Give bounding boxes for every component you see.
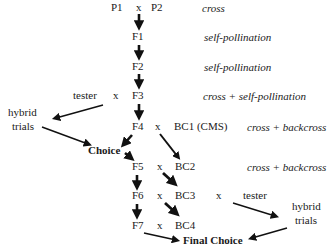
node-f4: F4 — [132, 121, 144, 132]
node-p2: P2 — [151, 2, 163, 13]
cross-symbol: x — [113, 90, 119, 101]
node-f5: F5 — [132, 161, 144, 172]
arrow-f5bc2-to-bc3 — [163, 173, 174, 183]
cross-symbol: x — [216, 190, 222, 201]
annotation-self-pollination-2: self-pollination — [204, 62, 271, 73]
arrow-hybrid-right-to-final-choice — [252, 228, 287, 238]
arrow-hybrid-left-to-choice — [42, 127, 88, 144]
node-f2: F2 — [132, 61, 144, 72]
annotation-cross-backcross-1: cross + backcross — [247, 122, 326, 133]
cross-symbol: x — [155, 121, 161, 132]
arrow-choice-to-f5 — [125, 153, 131, 158]
node-bc2: BC2 — [175, 161, 195, 172]
node-bc4: BC4 — [175, 220, 195, 231]
breeding-scheme-diagram: P1 x P2 cross F1 self-pollination F2 sel… — [0, 0, 335, 251]
node-hybrid-trials-left-line2: trials — [12, 121, 34, 132]
node-f3: F3 — [132, 90, 144, 101]
annotation-cross-self-pollination: cross + self-pollination — [203, 91, 306, 102]
node-hybrid-trials-right-line1: hybrid — [292, 201, 321, 212]
arrow-f4bc1-to-bc2 — [160, 134, 178, 157]
node-tester-right: tester — [243, 190, 267, 201]
cross-symbol: x — [136, 2, 142, 13]
annotation-self-pollination-1: self-pollination — [204, 32, 271, 43]
arrow-f7-to-final-choice — [144, 233, 176, 240]
cross-symbol: x — [157, 220, 163, 231]
node-p1: P1 — [111, 2, 123, 13]
arrow-tester-to-hybrid-left — [56, 105, 103, 118]
node-hybrid-trials-left-line1: hybrid — [8, 107, 37, 118]
cross-symbol: x — [157, 161, 163, 172]
cross-symbol: x — [157, 190, 163, 201]
node-bc3: BC3 — [175, 190, 195, 201]
node-tester-left: tester — [73, 90, 97, 101]
arrow-f4-to-choice — [124, 135, 132, 144]
annotation-cross-backcross-2: cross + backcross — [247, 162, 326, 173]
arrow-bc3tester-to-hybrid-right — [233, 203, 275, 216]
node-f6: F6 — [132, 190, 144, 201]
node-f1: F1 — [132, 31, 144, 42]
node-f7: F7 — [132, 220, 144, 231]
node-choice: Choice — [88, 145, 120, 156]
annotation-cross: cross — [202, 3, 225, 14]
arrow-f6bc3-to-bc4 — [165, 203, 176, 213]
node-bc1-cms: BC1 (CMS) — [174, 121, 228, 132]
node-hybrid-trials-right-line2: trials — [295, 215, 317, 226]
node-final-choice: Final Choice — [183, 235, 243, 246]
